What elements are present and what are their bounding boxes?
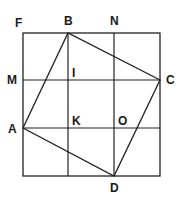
diagram-drawing bbox=[0, 0, 181, 204]
quadrilateral-abcd bbox=[23, 33, 160, 176]
label-i: I bbox=[72, 67, 75, 79]
label-b: B bbox=[64, 15, 73, 27]
geometry-diagram: F B N M I C A K O D bbox=[0, 0, 181, 204]
label-m: M bbox=[7, 74, 17, 86]
label-f: F bbox=[15, 17, 22, 29]
label-c: C bbox=[166, 74, 175, 86]
label-k: K bbox=[72, 115, 81, 127]
outer-square bbox=[23, 33, 160, 176]
label-d: D bbox=[110, 182, 119, 194]
label-o: O bbox=[118, 115, 127, 127]
label-n: N bbox=[110, 15, 119, 27]
label-a: A bbox=[8, 123, 17, 135]
